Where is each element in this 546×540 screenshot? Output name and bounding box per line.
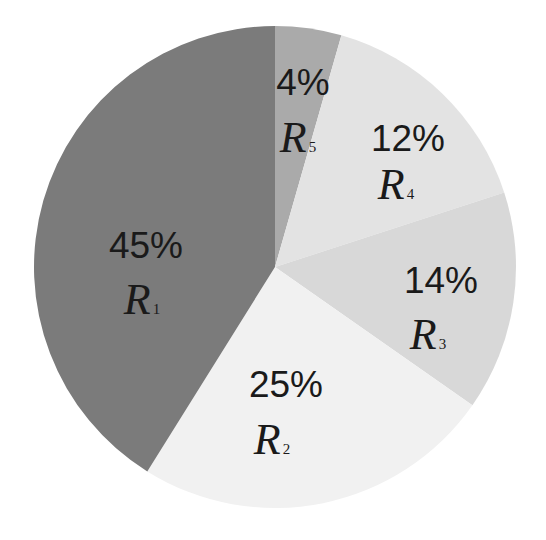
slice-r4-percent: 12%	[371, 120, 445, 157]
slice-r3-percent: 14%	[404, 262, 478, 299]
label-subscript: 2	[283, 441, 291, 457]
slice-r5-label: R5	[280, 116, 316, 160]
slice-r1-label: R1	[124, 278, 160, 322]
label-letter: R	[410, 310, 437, 359]
label-letter: R	[280, 113, 307, 162]
slice-r2-percent: 25%	[249, 366, 323, 403]
label-letter: R	[254, 415, 281, 464]
slice-r4-label: R4	[378, 163, 414, 207]
label-subscript: 5	[309, 139, 317, 155]
label-letter: R	[378, 160, 405, 209]
slice-r3-label: R3	[410, 313, 446, 357]
label-subscript: 1	[153, 301, 161, 317]
label-subscript: 3	[439, 336, 447, 352]
slice-r1-percent: 45%	[109, 227, 183, 264]
label-letter: R	[124, 275, 151, 324]
slice-r5-percent: 4%	[276, 64, 329, 101]
label-subscript: 4	[407, 186, 415, 202]
slice-r2-label: R2	[254, 418, 290, 462]
